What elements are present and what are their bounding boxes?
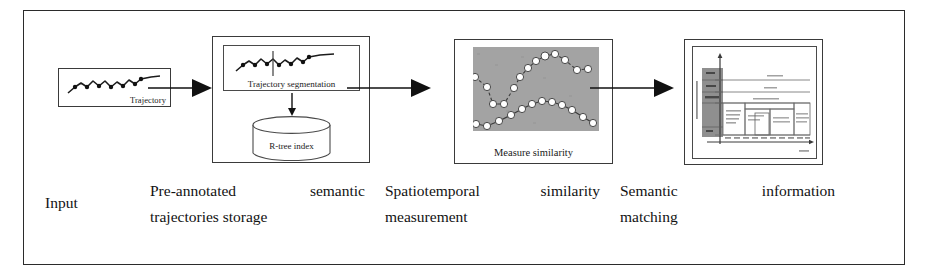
trajectory-segmentation-box: Trajectory segmentation [223,45,360,91]
arrow-storage-to-measure [347,75,433,101]
caption-semantic: Semantic information matching [620,178,835,230]
arrow-measure-to-semantic [590,75,676,101]
caption-measure-line-2: measurement [385,204,600,230]
caption-storage: Pre-annotated semantic trajectories stor… [150,178,365,230]
semantic-chart-icon [692,46,817,159]
caption-semantic-line-1: Semantic information [620,178,835,204]
r-tree-index-label: R-tree index [251,141,332,151]
caption-storage-line-1: Pre-annotated semantic [150,178,365,204]
trajectory-segmentation-label: Trajectory segmentation [224,79,359,89]
stage-box-semantic-matching [684,39,823,165]
database-cylinder-icon [251,116,332,162]
stage-box-measure-similarity: Measure similarity [454,39,613,164]
segmented-polyline-icon [224,49,359,79]
caption-measure-line-1: Spatiotemporal similarity [385,178,600,204]
measure-similarity-label: Measure similarity [455,147,612,158]
arrow-segmentation-to-index [285,93,299,117]
caption-semantic-line-2: matching [620,204,835,230]
semantic-chart-svg [693,47,816,158]
similarity-plot-icon [473,47,599,131]
arrow-input-to-storage [148,75,214,101]
r-tree-index-cylinder: R-tree index [251,116,332,162]
caption-measure: Spatiotemporal similarity measurement [385,178,600,230]
similarity-scatter-svg [473,47,599,131]
caption-storage-line-2: trajectories storage [150,204,365,230]
pipeline-figure: Trajectory Trajectory se [0,0,929,279]
